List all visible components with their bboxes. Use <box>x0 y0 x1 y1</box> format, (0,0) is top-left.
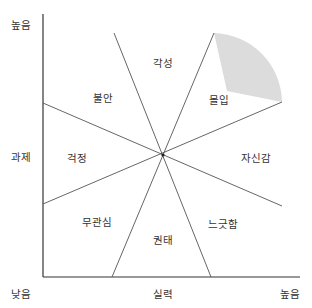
x-axis-low-label: 낮음 <box>11 289 31 300</box>
region-label-control: 자신감 <box>241 153 271 164</box>
x-axis-label: 실력 <box>153 289 173 300</box>
center-point <box>161 153 164 156</box>
y-axis-high-label: 높음 <box>11 20 31 31</box>
region-label-boredom: 권태 <box>153 235 173 246</box>
y-axis-label: 과제 <box>11 152 31 163</box>
region-label-anxiety: 불안 <box>93 93 113 104</box>
region-label-arousal: 각성 <box>153 58 173 69</box>
region-label-apathy: 무관심 <box>82 217 112 228</box>
region-label-flow: 몰입 <box>209 95 229 106</box>
region-label-worry: 걱정 <box>67 153 87 164</box>
x-axis-high-label: 높음 <box>280 289 300 300</box>
flow-zone-highlight <box>214 33 282 102</box>
region-label-relaxation: 느긋함 <box>208 219 238 230</box>
